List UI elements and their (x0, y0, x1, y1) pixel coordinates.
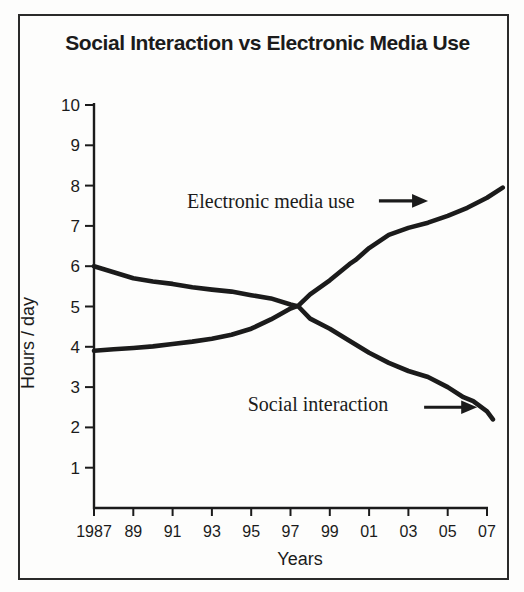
y-tick-label: 3 (71, 378, 80, 397)
y-tick-label: 2 (71, 418, 80, 437)
annotation-social-interaction: Social interaction (248, 393, 389, 415)
line-chart: 12345678910198789919395979901030507Years… (0, 0, 524, 592)
y-tick-label: 9 (71, 136, 80, 155)
y-axis-title: Hours / day (18, 297, 38, 389)
x-tick-label: 97 (282, 523, 300, 540)
x-tick-label: 01 (360, 523, 378, 540)
x-tick-label: 93 (203, 523, 221, 540)
y-tick-label: 6 (71, 257, 80, 276)
y-tick-label: 1 (71, 459, 80, 478)
y-tick-label: 8 (71, 177, 80, 196)
x-tick-label: 95 (242, 523, 260, 540)
x-tick-label: 03 (400, 523, 418, 540)
annotation-electronic-media-use: Electronic media use (187, 190, 355, 212)
series-electronic-media-use (94, 188, 503, 351)
x-tick-label: 91 (164, 523, 182, 540)
x-tick-label: 89 (124, 523, 142, 540)
x-tick-label: 99 (321, 523, 339, 540)
x-tick-label: 07 (478, 523, 496, 540)
y-tick-label: 5 (71, 298, 80, 317)
arrow-head-electronic-media-use (412, 194, 428, 208)
x-tick-label: 1987 (76, 523, 112, 540)
figure-page: Social Interaction vs Electronic Media U… (0, 0, 524, 592)
y-tick-label: 10 (61, 96, 80, 115)
x-axis-title: Years (277, 549, 322, 569)
y-tick-label: 4 (71, 338, 80, 357)
x-tick-label: 05 (439, 523, 457, 540)
y-tick-label: 7 (71, 217, 80, 236)
